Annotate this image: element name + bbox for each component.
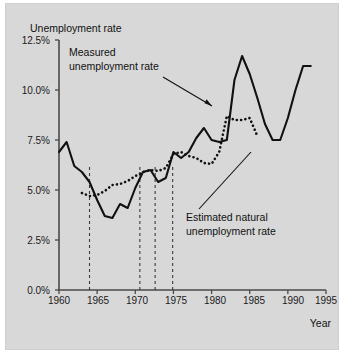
x-tick-label-1965: 1965 — [87, 295, 110, 306]
y-tick-label-7-5: 7.5% — [27, 135, 50, 146]
x-tick-label-1990: 1990 — [282, 295, 305, 306]
chart-figure: Unemployment rate 12.5% 10.0% 7.5% 5.0% … — [6, 4, 338, 349]
axis-lines — [59, 40, 326, 290]
y-tick-label-0-0: 0.0% — [27, 285, 50, 296]
x-tick-label-1970: 1970 — [126, 295, 149, 306]
annotation-measured-line1: Measured — [69, 46, 116, 58]
annotation-natural-leader — [199, 152, 251, 209]
x-axis-title: Year — [310, 317, 332, 329]
x-tick-label-1985: 1985 — [243, 295, 266, 306]
y-tick-label-12-5: 12.5% — [22, 35, 50, 46]
annotation-measured-arrowhead — [205, 99, 213, 106]
x-tick-label-1995: 1995 — [315, 295, 338, 306]
annotation-natural-line2: unemployment rate — [186, 225, 276, 237]
y-axis-title: Unemployment rate — [30, 22, 122, 34]
y-tick-label-2-5: 2.5% — [27, 235, 50, 246]
annotation-measured-leader — [163, 77, 212, 106]
recession-markers — [90, 166, 173, 290]
chart-axes — [55, 40, 326, 294]
unemployment-rate-line-chart: Unemployment rate 12.5% 10.0% 7.5% 5.0% … — [6, 4, 338, 349]
series-estimated-natural-unemployment-rate — [82, 116, 257, 196]
x-tick-label-1960: 1960 — [48, 295, 71, 306]
annotation-measured-line2: unemployment rate — [69, 60, 159, 72]
y-tick-label-10-0: 10.0% — [22, 85, 50, 96]
y-tick-label-5-0: 5.0% — [27, 185, 50, 196]
series-measured-unemployment-rate — [59, 56, 311, 218]
x-tick-label-1975: 1975 — [165, 295, 188, 306]
annotation-natural-line1: Estimated natural — [186, 211, 268, 223]
x-tick-label-1980: 1980 — [204, 295, 227, 306]
